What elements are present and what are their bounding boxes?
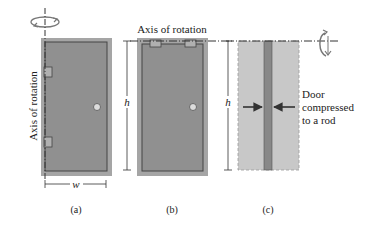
height-label-c: h [225, 96, 231, 108]
axis-label-a: Axis of rotation [27, 71, 39, 141]
caption-a: (a) [70, 204, 81, 216]
axis-label-b: Axis of rotation [137, 23, 207, 35]
panel-c: h Door compressed to a rod (c) [222, 30, 357, 216]
door-knob-icon [190, 104, 197, 111]
door-knob-icon [94, 104, 101, 111]
caption-b: (b) [166, 204, 178, 216]
height-label-b: h [124, 96, 130, 108]
panel-b: h Axis of rotation (b) [121, 23, 232, 216]
door-rotation-diagram: Axis of rotation w (a) h Axis of rotatio… [0, 0, 375, 227]
caption-c: (c) [262, 204, 273, 216]
panel-a: Axis of rotation w (a) [27, 8, 112, 216]
rod-annotation: Door compressed to a rod [302, 88, 357, 126]
rotation-arrow-icon [320, 30, 331, 56]
width-label: w [72, 178, 80, 190]
rod [264, 41, 272, 170]
